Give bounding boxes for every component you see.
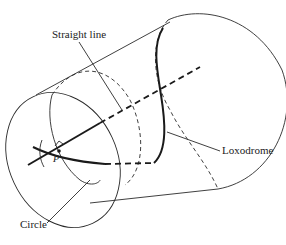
cylinder-diagram: Straight line Loxodrome Circle P bbox=[0, 0, 286, 245]
straight-line-leader bbox=[79, 42, 122, 110]
circle bbox=[50, 71, 141, 185]
circle-label: Circle bbox=[20, 218, 47, 230]
loxodrome-label: Loxodrome bbox=[222, 144, 273, 156]
cylinder-axis bbox=[28, 67, 200, 165]
point-P-label: P bbox=[52, 153, 59, 164]
cylinder-bottom-edge bbox=[90, 189, 218, 203]
loxodrome bbox=[33, 28, 164, 164]
straight-line-label: Straight line bbox=[52, 28, 106, 40]
circle-leader bbox=[47, 180, 90, 223]
back-ellipse bbox=[155, 14, 286, 189]
